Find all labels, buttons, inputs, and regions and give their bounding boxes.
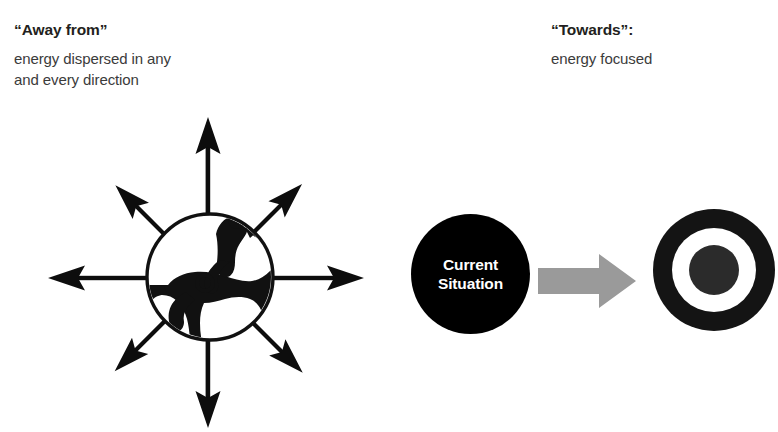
away-from-text-block: “Away from” energy dispersed in any and … (14, 20, 171, 90)
current-situation-node: Current Situation (411, 214, 530, 334)
towards-description: energy focused (551, 48, 652, 69)
diagram-canvas: “Away from” energy dispersed in any and … (0, 0, 778, 432)
flow-arrow-right-icon (537, 252, 637, 310)
current-situation-label-line-1: Current (443, 255, 498, 274)
bullseye-target-icon (652, 208, 776, 332)
away-from-starburst-graphic (40, 110, 376, 432)
away-from-heading: “Away from” (14, 20, 171, 40)
away-from-description-line-2: and every direction (14, 69, 171, 90)
towards-description-line-1: energy focused (551, 48, 652, 69)
target-center-dot (689, 245, 739, 295)
away-from-description: energy dispersed in any and every direct… (14, 48, 171, 90)
towards-text-block: “Towards”: energy focused (551, 20, 652, 69)
away-from-description-line-1: energy dispersed in any (14, 48, 171, 69)
current-situation-label-line-2: Situation (438, 274, 503, 293)
towards-heading: “Towards”: (551, 20, 652, 40)
